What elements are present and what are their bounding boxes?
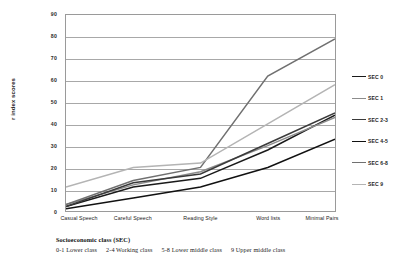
legend-label: SEC 9 bbox=[368, 181, 383, 187]
y-tick-label: 20 bbox=[51, 165, 57, 171]
legend-swatch bbox=[352, 184, 366, 185]
caption-item: 0-1 Lower class bbox=[56, 246, 97, 253]
legend-item[interactable]: SEC 0 bbox=[352, 66, 412, 88]
y-tick-label: 30 bbox=[51, 143, 57, 149]
legend-item[interactable]: SEC 6-8 bbox=[352, 152, 412, 174]
legend: SEC 0SEC 1SEC 2-3SEC 4-5SEC 6-8SEC 9 bbox=[352, 66, 412, 195]
x-tick-label: Word lists bbox=[256, 215, 280, 221]
y-tick-label: 50 bbox=[51, 99, 57, 105]
plot-area bbox=[65, 14, 336, 212]
y-tick-label: 90 bbox=[51, 11, 57, 17]
caption: Socioeconomic class (SEC) 0-1 Lower clas… bbox=[56, 236, 406, 253]
legend-label: SEC 0 bbox=[368, 74, 383, 80]
y-tick-label: 10 bbox=[51, 187, 57, 193]
series-line bbox=[66, 113, 335, 207]
legend-swatch bbox=[352, 76, 366, 77]
legend-label: SEC 2-3 bbox=[368, 117, 388, 123]
legend-swatch bbox=[352, 119, 366, 120]
legend-swatch bbox=[352, 98, 366, 99]
legend-label: SEC 1 bbox=[368, 95, 383, 101]
series-line bbox=[66, 39, 335, 205]
caption-item: 9 Upper middle class bbox=[231, 246, 285, 253]
x-tick-label: Casual Speech bbox=[60, 215, 97, 221]
x-tick-label: Reading Style bbox=[183, 215, 217, 221]
caption-title: Socioeconomic class (SEC) bbox=[56, 236, 406, 243]
legend-label: SEC 6-8 bbox=[368, 160, 388, 166]
legend-item[interactable]: SEC 2-3 bbox=[352, 109, 412, 131]
chart-root: 9080706050403020100 r index scores Casua… bbox=[0, 0, 414, 270]
series-line bbox=[66, 117, 335, 204]
x-axis-labels: Casual SpeechCareful SpeechReading Style… bbox=[65, 215, 336, 227]
legend-label: SEC 4-5 bbox=[368, 138, 388, 144]
legend-swatch bbox=[352, 141, 366, 142]
series-lines bbox=[66, 15, 335, 211]
y-tick-label: 40 bbox=[51, 121, 57, 127]
legend-swatch bbox=[352, 162, 366, 163]
y-tick-label: 0 bbox=[54, 209, 57, 215]
caption-items: 0-1 Lower class2-4 Working class5-8 Lowe… bbox=[56, 246, 406, 253]
caption-item: 2-4 Working class bbox=[106, 246, 152, 253]
legend-item[interactable]: SEC 4-5 bbox=[352, 131, 412, 153]
y-tick-label: 80 bbox=[51, 33, 57, 39]
legend-item[interactable]: SEC 1 bbox=[352, 88, 412, 110]
y-tick-label: 60 bbox=[51, 77, 57, 83]
x-tick-label: Minimal Pairs bbox=[305, 215, 338, 221]
caption-item: 5-8 Lower middle class bbox=[162, 246, 222, 253]
y-axis-title: r index scores bbox=[10, 54, 16, 144]
x-tick-label: Careful Speech bbox=[114, 215, 152, 221]
y-tick-label: 70 bbox=[51, 55, 57, 61]
legend-item[interactable]: SEC 9 bbox=[352, 174, 412, 196]
